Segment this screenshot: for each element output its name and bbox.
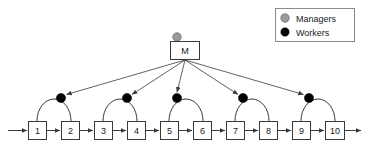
- worker-dot-1[interactable]: [56, 93, 65, 102]
- arc-5-6: [169, 99, 203, 121]
- edge-to-worker-1: [67, 60, 186, 95]
- node-label-5: 5: [167, 126, 172, 136]
- node-label-8: 8: [266, 126, 271, 136]
- diagram-svg: Managers Workers M: [0, 0, 368, 149]
- chain-node-9[interactable]: 9: [293, 122, 311, 140]
- manager-marker-icon: [173, 33, 181, 41]
- chain-node-5[interactable]: 5: [161, 122, 179, 140]
- arc-9-10: [301, 99, 335, 121]
- edge-to-worker-2: [132, 60, 185, 95]
- chain-node-6[interactable]: 6: [194, 122, 212, 140]
- chain-node-8[interactable]: 8: [260, 122, 278, 140]
- chain-node-2[interactable]: 2: [62, 122, 80, 140]
- edge-to-worker-4: [185, 60, 238, 95]
- node-label-10: 10: [330, 126, 340, 136]
- diagram-canvas: Managers Workers M: [0, 0, 368, 149]
- chain-node-10[interactable]: 10: [326, 122, 345, 140]
- worker-dot-5[interactable]: [304, 93, 313, 102]
- legend-label-workers: Workers: [296, 28, 330, 38]
- worker-dot-4[interactable]: [238, 93, 247, 102]
- manager-node[interactable]: M: [171, 33, 200, 60]
- manager-label: M: [181, 46, 189, 56]
- node-label-2: 2: [68, 126, 73, 136]
- worker-dot-2[interactable]: [122, 93, 131, 102]
- legend-label-managers: Managers: [296, 14, 337, 24]
- arc-1-2: [37, 99, 71, 121]
- chain-node-4[interactable]: 4: [128, 122, 146, 140]
- pair-arcs: [37, 99, 335, 121]
- node-label-1: 1: [35, 126, 40, 136]
- manager-circle-icon: [281, 14, 289, 22]
- worker-dots: [56, 93, 313, 102]
- worker-dot-icon: [281, 28, 289, 36]
- arc-3-4: [103, 99, 137, 121]
- chain-node-1[interactable]: 1: [29, 122, 47, 140]
- node-label-6: 6: [200, 126, 205, 136]
- manager-edges: [67, 60, 304, 95]
- legend: Managers Workers: [276, 9, 355, 42]
- edge-to-worker-5: [185, 60, 304, 95]
- worker-dot-3[interactable]: [172, 93, 181, 102]
- node-label-7: 7: [233, 126, 238, 136]
- node-label-3: 3: [101, 126, 106, 136]
- node-label-4: 4: [134, 126, 139, 136]
- chain-node-3[interactable]: 3: [95, 122, 113, 140]
- chain-node-7[interactable]: 7: [227, 122, 245, 140]
- arc-7-8: [235, 99, 269, 121]
- node-label-9: 9: [299, 126, 304, 136]
